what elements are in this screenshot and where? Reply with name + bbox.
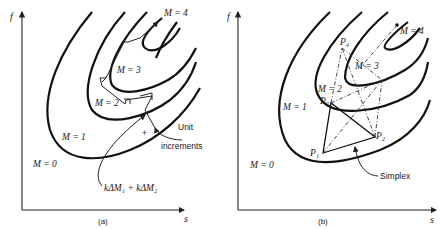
label-m4-b: M = 4 (399, 26, 424, 36)
x-axis-label-a: s (184, 213, 188, 224)
panel-b: f s (b) M = 0 M = 1 M = 2 M = 3 M = 4 P₁… (227, 11, 436, 226)
label-m2-b: M = 2 (317, 84, 342, 94)
combined-step-label: kΔM₁ + kΔM₂ (104, 183, 158, 193)
label-m3-b: M = 3 (354, 61, 379, 71)
contour-outer-a (156, 22, 177, 58)
dash-p3-p4 (331, 48, 342, 103)
unit-increments-label-2: increments (161, 141, 203, 151)
contour-m3-a (110, 12, 196, 92)
caption-b: (b) (318, 217, 328, 226)
plus-sign-a: + (142, 128, 147, 138)
point-p3: P₃ (319, 96, 329, 106)
x-axis-label-b: s (430, 214, 434, 225)
point-p2: P₂ (375, 131, 386, 141)
label-m1-b: M = 1 (282, 102, 307, 112)
panel-a: f s (a) M = 0 M = 1 M = 2 M = 3 M = 4 + … (10, 8, 203, 226)
y-axis-label-a: f (10, 11, 14, 22)
figure-canvas: f s (a) M = 0 M = 1 M = 2 M = 3 M = 4 + … (0, 0, 446, 229)
unit-increments-label-1: Unit (178, 122, 194, 132)
label-m3-a: M = 3 (116, 65, 141, 75)
unit-step-box-c (102, 78, 106, 82)
simplex-label: Simplex (380, 171, 411, 181)
point-p1: P₁ (309, 148, 319, 158)
label-m2-a: M = 2 (94, 98, 119, 108)
label-m4-a: M = 4 (163, 8, 188, 18)
label-m0-b: M = 0 (249, 160, 274, 170)
caption-a: (a) (98, 217, 108, 226)
label-m0-a: M = 0 (32, 159, 57, 169)
label-m1-a: M = 1 (61, 132, 86, 142)
y-axis-label-b: f (227, 11, 231, 22)
point-p4: P₄ (339, 37, 349, 47)
combined-step-pointer (98, 115, 145, 186)
